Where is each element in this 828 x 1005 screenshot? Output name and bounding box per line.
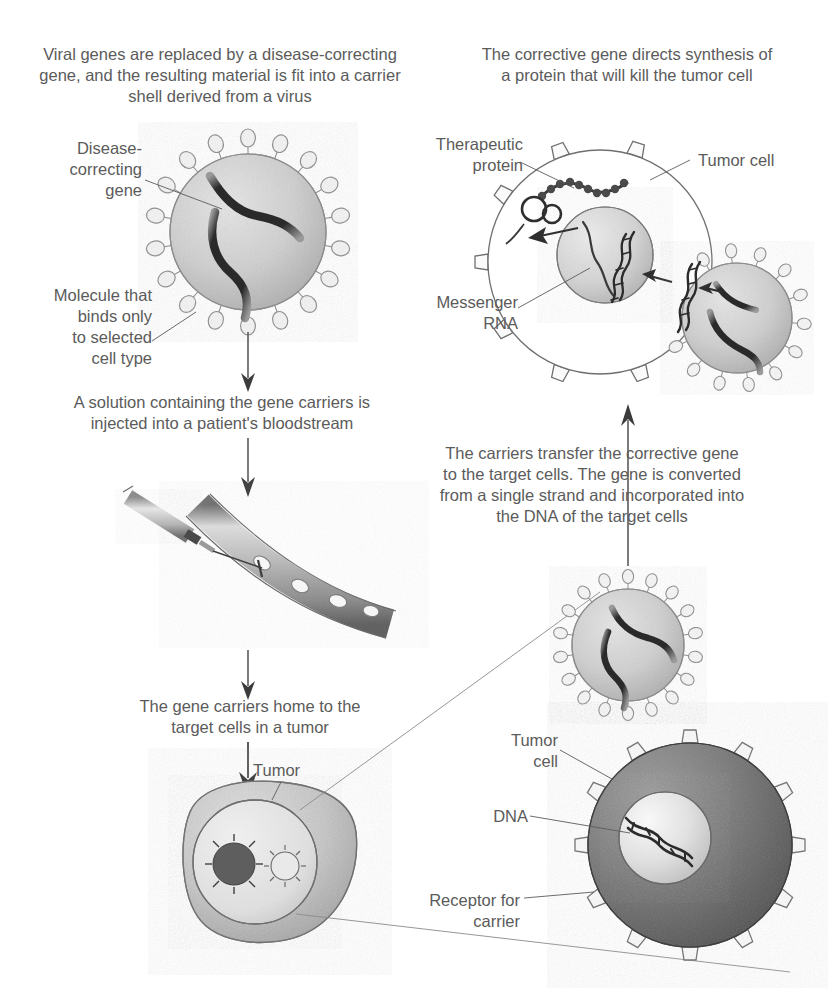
arrow-up-to-cell <box>621 404 635 566</box>
arrow-down-to-vessel <box>241 438 255 497</box>
light-organelle <box>271 852 299 880</box>
leader-receptor <box>524 892 594 898</box>
dark-organelle <box>213 843 255 885</box>
arrow-down-to-tumor-caption <box>241 650 255 700</box>
virus-carrier-particle-mid <box>553 570 704 721</box>
figure-canvas: Viral genes are replaced by a disease-co… <box>0 0 828 1005</box>
diagram-illustration <box>0 0 828 1005</box>
syringe-hub <box>200 542 214 551</box>
virus-carrier-particle-top <box>145 129 350 335</box>
tumor-cell-bottom <box>524 730 805 960</box>
leader-tumor-cell-bottom <box>560 750 612 779</box>
arrow-down-injection <box>241 332 255 392</box>
leader-molecule-binds <box>152 312 196 341</box>
blood-vessel <box>186 494 396 638</box>
syringe-plunger-tip <box>186 533 199 541</box>
